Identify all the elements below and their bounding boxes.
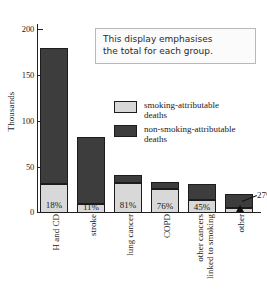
annotation-box: This display emphasises the total for ea… — [95, 28, 256, 64]
bar-percent-label: 81% — [114, 201, 142, 210]
bar-lung-cancer[interactable]: 81% — [114, 175, 142, 213]
y-tick-label-0: 0 — [6, 208, 34, 217]
legend-item-non-smoking[interactable]: non-smoking-attributable deaths — [114, 124, 264, 144]
bar-segment-non-smoking — [40, 48, 68, 184]
bar-segment-non-smoking — [77, 137, 105, 204]
legend: smoking-attributable deaths non-smoking-… — [114, 100, 264, 148]
legend-swatch-icon — [114, 101, 137, 113]
bar-segment-non-smoking — [151, 182, 179, 189]
bar-percent-label: 18% — [40, 201, 68, 210]
bar-percent-label: 76% — [151, 202, 179, 211]
stacked-bar-chart: 200 150 100 50 0 Thousands 18% 11% 81% 7… — [0, 0, 267, 299]
annotation-line2: the total for each group. — [103, 46, 248, 58]
legend-label-line1: smoking-attributable — [144, 100, 264, 110]
y-axis-title: Thousands — [7, 72, 16, 152]
bar-copd[interactable]: 76% — [151, 182, 179, 213]
bar-percent-label: 45% — [188, 203, 216, 212]
bar-segment-non-smoking — [188, 184, 216, 200]
bar-h-and-cd[interactable]: 18% — [40, 48, 68, 213]
bar-stroke[interactable]: 11% — [77, 137, 105, 213]
x-label-linked-to-smoking: linked to smoking — [206, 214, 216, 294]
x-label-other: other — [237, 214, 247, 294]
y-tick-label-200: 200 — [6, 25, 34, 34]
callout-pointer-icon — [236, 205, 244, 212]
annotation-line1: This display emphasises — [103, 34, 248, 46]
legend-label-line1: non-smoking-attributable — [144, 124, 264, 134]
legend-label: smoking-attributable deaths — [144, 100, 264, 120]
bar-other-cancers[interactable]: 45% — [188, 184, 216, 213]
bar-percent-callout-label: 27% — [257, 191, 267, 200]
legend-item-smoking[interactable]: smoking-attributable deaths — [114, 100, 264, 120]
x-label-copd: COPD — [163, 214, 173, 294]
legend-label: non-smoking-attributable deaths — [144, 124, 264, 144]
legend-swatch-icon — [114, 125, 137, 137]
y-tick-label-50: 50 — [6, 163, 34, 172]
legend-label-line2: deaths — [144, 110, 264, 120]
legend-label-line2: deaths — [144, 134, 264, 144]
x-label-h-and-cd: H and CD — [52, 214, 62, 294]
x-label-lung-cancer: lung cancer — [126, 214, 136, 294]
bar-other[interactable]: 27% — [225, 194, 253, 213]
bar-segment-non-smoking — [114, 175, 142, 183]
x-label-stroke: stroke — [89, 214, 99, 294]
bar-percent-label: 11% — [77, 203, 105, 212]
